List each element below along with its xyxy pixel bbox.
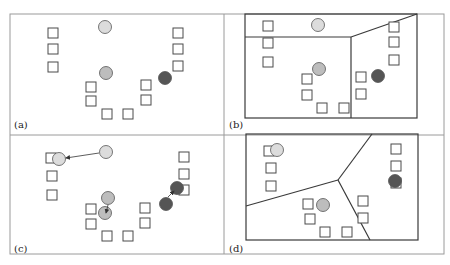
centroid-circle-medium	[100, 67, 113, 80]
data-point-square	[179, 169, 189, 179]
voronoi-boundary-line	[338, 134, 372, 180]
data-point-square	[342, 227, 352, 237]
data-point-square	[86, 96, 96, 106]
data-point-square	[86, 204, 96, 214]
data-point-square	[356, 72, 366, 82]
panel-a: (a)	[14, 21, 183, 131]
data-point-square	[173, 44, 183, 54]
data-point-square	[47, 171, 57, 181]
data-point-square	[302, 90, 312, 100]
centroid-circle-dark	[389, 175, 402, 188]
data-point-square	[358, 196, 368, 206]
data-point-square	[391, 161, 401, 171]
centroid-circle-medium	[313, 63, 326, 76]
panels: (a)(b)(c)(d)	[14, 14, 418, 254]
centroid-circle-dark	[159, 72, 172, 85]
data-point-square	[266, 163, 276, 173]
data-point-square	[263, 38, 273, 48]
data-point-square	[266, 181, 276, 191]
panel-label-c: (c)	[14, 243, 28, 254]
panel-label-d: (d)	[229, 243, 243, 254]
centroid-circle-medium	[102, 192, 115, 205]
panel-label-b: (b)	[229, 119, 243, 130]
panel-label-a: (a)	[14, 119, 28, 130]
data-point-square	[86, 219, 96, 229]
voronoi-boundary-line	[351, 14, 417, 37]
data-point-square	[173, 61, 183, 71]
data-point-square	[263, 21, 273, 31]
data-point-square	[358, 213, 368, 223]
panel-d: (d)	[229, 134, 418, 254]
centroid-circle-light	[99, 21, 112, 34]
data-point-square	[48, 28, 58, 38]
data-point-square	[140, 203, 150, 213]
data-point-square	[389, 22, 399, 32]
centroid-circle-medium	[99, 207, 112, 220]
data-point-square	[102, 231, 112, 241]
data-point-square	[123, 109, 133, 119]
centroid-circle-dark	[160, 198, 173, 211]
data-point-square	[140, 218, 150, 228]
data-point-square	[173, 28, 183, 38]
data-point-square	[179, 152, 189, 162]
data-point-square	[305, 214, 315, 224]
centroid-circle-dark	[372, 70, 385, 83]
data-point-square	[48, 44, 58, 54]
centroid-circle-light	[312, 19, 325, 32]
data-point-square	[141, 95, 151, 105]
k-means-voronoi-figure: (a)(b)(c)(d)	[0, 0, 450, 265]
panel-b: (b)	[229, 14, 417, 130]
data-point-square	[389, 55, 399, 65]
data-point-square	[263, 57, 273, 67]
data-point-square	[48, 62, 58, 72]
data-point-square	[102, 109, 112, 119]
centroid-move-arrow	[168, 191, 174, 197]
data-point-square	[303, 199, 313, 209]
centroid-circle-light	[53, 153, 66, 166]
data-point-square	[317, 103, 327, 113]
data-point-square	[356, 89, 366, 99]
centroid-circle-light	[271, 144, 284, 157]
data-point-square	[47, 190, 57, 200]
centroid-move-arrow	[66, 153, 99, 158]
data-point-square	[339, 103, 349, 113]
panel-c: (c)	[14, 146, 189, 255]
data-point-square	[123, 231, 133, 241]
data-point-square	[86, 82, 96, 92]
data-point-square	[320, 227, 330, 237]
data-point-square	[141, 80, 151, 90]
centroid-circle-medium	[317, 199, 330, 212]
data-point-square	[391, 144, 401, 154]
data-point-square	[389, 37, 399, 47]
data-point-square	[302, 74, 312, 84]
centroid-circle-light	[100, 146, 113, 159]
